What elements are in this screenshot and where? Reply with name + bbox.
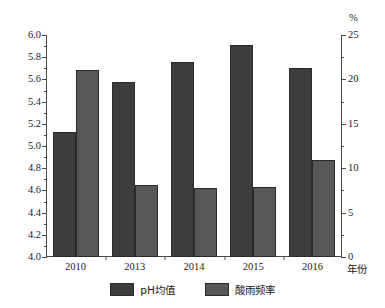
bar-frequency-2015 [253, 187, 276, 257]
bars-layer [46, 35, 342, 257]
legend-label: pH均值 [140, 282, 175, 297]
legend-swatch-icon [205, 283, 229, 296]
right-axis-tick-label: 5 [348, 208, 353, 218]
x-axis-categories: 20102013201420152016 [46, 261, 342, 277]
right-axis-tick-label: 15 [348, 119, 359, 129]
left-axis-tick-label: 5.6 [28, 74, 41, 84]
right-axis-tick-label: 20 [348, 74, 359, 84]
x-axis-title: 年份 [347, 261, 367, 276]
left-axis-tick-label: 5.2 [28, 119, 41, 129]
legend-item: pH均值 [110, 282, 175, 297]
bar-frequency-2010 [76, 70, 99, 257]
legend-item: 酸雨频率 [205, 282, 275, 297]
x-axis-tick-label: 2016 [302, 261, 323, 272]
legend-label: 酸雨频率 [235, 282, 275, 297]
right-axis-unit-label: % [349, 12, 358, 23]
left-axis-tick-label: 5.8 [28, 52, 41, 62]
right-axis-tick-label: 25 [348, 30, 359, 40]
bar-ph-2014 [171, 62, 194, 257]
left-axis-tick-label: 5.0 [28, 141, 41, 151]
x-axis-tick-label: 2014 [184, 261, 205, 272]
left-axis-tick-label: 4.4 [28, 208, 41, 218]
left-axis-tick-label: 4.2 [28, 230, 41, 240]
left-axis-tick-label: 6.0 [28, 30, 41, 40]
left-axis-tick-label: 4.8 [28, 163, 41, 173]
bar-ph-2013 [112, 82, 135, 257]
bar-frequency-2016 [312, 160, 335, 257]
legend: pH均值酸雨频率 [0, 282, 385, 297]
left-axis-tick-mark [42, 257, 47, 258]
left-axis-tick-label: 4.6 [28, 185, 41, 195]
bar-ph-2010 [53, 132, 76, 257]
x-axis-tick-label: 2013 [124, 261, 145, 272]
x-axis-tick-label: 2015 [243, 261, 264, 272]
bar-ph-2015 [230, 45, 253, 257]
x-axis-tick-label: 2010 [65, 261, 86, 272]
legend-swatch-icon [110, 283, 134, 296]
left-axis-tick-label: 4.0 [28, 252, 41, 262]
bar-frequency-2013 [135, 185, 158, 257]
right-axis: 0510152025 [348, 35, 382, 257]
right-axis-tick-label: 10 [348, 163, 359, 173]
bar-ph-2016 [289, 68, 312, 257]
acid-rain-bar-chart: % 4.04.24.44.64.85.05.25.45.65.86.0 0510… [0, 0, 385, 308]
left-axis: 4.04.24.44.64.85.05.25.45.65.86.0 [0, 35, 41, 257]
left-axis-tick-label: 5.4 [28, 97, 41, 107]
bar-frequency-2014 [194, 188, 217, 257]
right-axis-tick-mark [341, 257, 346, 258]
